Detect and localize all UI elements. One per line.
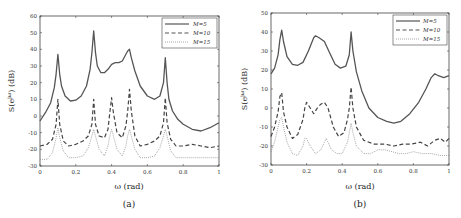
x-tick-label: 0.8 (409, 168, 418, 174)
y-axis-label: S(ejω) (dB) (6, 70, 16, 112)
figure: 00.20.40.60.81-30-20-100102030405060 M=5… (0, 0, 461, 218)
x-tick-label: 1 (447, 168, 451, 174)
legend-label: M=10 (422, 27, 441, 33)
y-tick-label: -30 (28, 163, 37, 169)
y-tick-label: 60 (30, 13, 37, 19)
legend-label: M=5 (422, 18, 437, 24)
legend: M=5 M=10 M=15 (162, 18, 217, 48)
x-tick-label: 0 (38, 169, 42, 175)
legend-label: M=15 (192, 39, 211, 45)
legend: M=5 M=10 M=15 (393, 15, 447, 45)
y-tick-label: -30 (259, 162, 268, 168)
y-tick-label: 10 (30, 96, 37, 102)
x-tick-label: 0.2 (302, 168, 311, 174)
y-tick-label: 40 (261, 29, 268, 35)
series-line-dotted (271, 118, 449, 156)
y-tick-label: -10 (259, 124, 268, 130)
panel-caption: (a) (123, 199, 135, 209)
series-line-dotted (40, 128, 219, 160)
x-tick-label: 0.4 (107, 169, 116, 175)
y-tick-label: 20 (30, 80, 37, 86)
y-tick-label: -20 (259, 143, 268, 149)
x-axis-label: ω (rad) (114, 182, 143, 191)
y-tick-label: 50 (261, 10, 268, 16)
x-tick-label: 0.6 (373, 168, 382, 174)
x-tick-label: 1 (217, 169, 221, 175)
data-lines (40, 31, 219, 159)
y-tick-label: 50 (30, 30, 37, 36)
y-tick-label: -20 (28, 146, 37, 152)
x-tick-label: 0.2 (71, 169, 80, 175)
panel-caption: (b) (354, 199, 367, 209)
legend-label: M=10 (192, 30, 211, 36)
legend-label: M=5 (192, 21, 207, 27)
chart-panel-a: 00.20.40.60.81-30-20-100102030405060 M=5… (6, 13, 221, 209)
x-tick-label: 0.4 (338, 168, 347, 174)
y-tick-label: 40 (30, 46, 37, 52)
x-tick-label: 0 (269, 168, 273, 174)
y-tick-label: 10 (261, 86, 268, 92)
x-tick-label: 0.8 (179, 169, 188, 175)
y-tick-label: 0 (265, 105, 269, 111)
chart-panel-b: 00.20.40.60.81-30-20-1001020304050 M=5 M… (239, 10, 451, 209)
y-tick-label: 30 (261, 48, 268, 54)
y-axis-label: S(ejω) (dB) (239, 68, 249, 110)
y-tick-label: 20 (261, 67, 268, 73)
x-axis-label: ω (rad) (345, 182, 374, 191)
data-lines (271, 30, 449, 155)
legend-label: M=15 (422, 36, 441, 42)
y-tick-label: -10 (28, 130, 37, 136)
y-tick-label: 0 (34, 113, 38, 119)
y-tick-label: 30 (30, 63, 37, 69)
x-tick-label: 0.6 (143, 169, 152, 175)
